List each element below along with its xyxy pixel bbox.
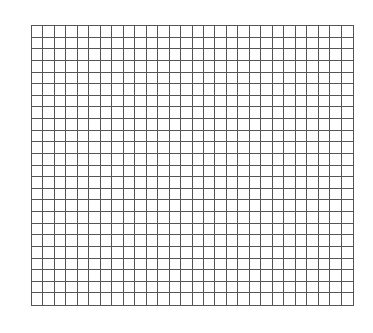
grid-cell: [204, 177, 215, 189]
grid-cell: [238, 166, 249, 178]
grid-cell: [227, 189, 238, 201]
grid-cell: [147, 49, 158, 61]
grid-cell: [238, 49, 249, 61]
grid-cell: [319, 26, 330, 38]
grid-cell: [147, 293, 158, 305]
grid-cell: [158, 235, 169, 247]
grid-cell: [78, 235, 89, 247]
grid-cell: [342, 38, 353, 50]
grid-cell: [330, 235, 341, 247]
grid-cell: [55, 119, 66, 131]
grid-cell: [66, 61, 77, 73]
grid-cell: [319, 154, 330, 166]
grid-cell: [296, 119, 307, 131]
grid-cell: [319, 84, 330, 96]
grid-cell: [250, 282, 261, 294]
grid-cell: [238, 293, 249, 305]
grid-cell: [112, 200, 123, 212]
grid-cell: [273, 259, 284, 271]
grid-cell: [181, 26, 192, 38]
grid-cell: [78, 212, 89, 224]
grid-cell: [32, 200, 43, 212]
grid-cell: [215, 38, 226, 50]
grid-cell: [215, 235, 226, 247]
grid-cell: [296, 61, 307, 73]
grid-cell: [250, 270, 261, 282]
grid-cell: [284, 107, 295, 119]
grid-cell: [250, 154, 261, 166]
grid-cell: [296, 282, 307, 294]
grid-cell: [284, 96, 295, 108]
grid-cell: [135, 96, 146, 108]
grid-cell: [158, 131, 169, 143]
grid-cell: [55, 49, 66, 61]
grid-cell: [43, 166, 54, 178]
grid-cell: [43, 119, 54, 131]
grid-cell: [170, 177, 181, 189]
grid-cell: [89, 107, 100, 119]
grid-cell: [43, 38, 54, 50]
grid-cell: [307, 49, 318, 61]
grid-cell: [296, 154, 307, 166]
grid-cell: [319, 235, 330, 247]
grid-cell: [43, 154, 54, 166]
grid-cell: [238, 270, 249, 282]
grid-cell: [112, 259, 123, 271]
grid-cell: [319, 61, 330, 73]
grid-cell: [284, 84, 295, 96]
grid-cell: [112, 224, 123, 236]
grid-cell: [66, 107, 77, 119]
grid-cell: [204, 235, 215, 247]
grid-cell: [273, 166, 284, 178]
grid-cell: [319, 96, 330, 108]
grid-cell: [170, 119, 181, 131]
grid-cell: [296, 142, 307, 154]
grid-cell: [273, 200, 284, 212]
grid-cell: [273, 247, 284, 259]
grid-cell: [215, 119, 226, 131]
grid-cell: [204, 282, 215, 294]
grid-cell: [296, 247, 307, 259]
grid-cell: [204, 270, 215, 282]
grid-cell: [89, 166, 100, 178]
grid-cell: [170, 166, 181, 178]
grid-cell: [66, 26, 77, 38]
grid-cell: [147, 84, 158, 96]
grid-cell: [66, 200, 77, 212]
grid-cell: [284, 154, 295, 166]
grid-cell: [89, 235, 100, 247]
grid-cell: [307, 131, 318, 143]
grid-cell: [158, 189, 169, 201]
grid-cell: [330, 142, 341, 154]
grid-cell: [135, 107, 146, 119]
grid-cell: [238, 131, 249, 143]
grid-cell: [89, 61, 100, 73]
grid-cell: [307, 270, 318, 282]
grid-cell: [55, 212, 66, 224]
grid-cell: [43, 26, 54, 38]
grid-cell: [238, 38, 249, 50]
grid-cell: [261, 38, 272, 50]
grid-cell: [89, 247, 100, 259]
grid-cell: [78, 166, 89, 178]
grid-cell: [250, 177, 261, 189]
grid-cell: [181, 107, 192, 119]
grid-cell: [227, 73, 238, 85]
grid-cell: [238, 84, 249, 96]
grid-cell: [284, 142, 295, 154]
grid-cell: [319, 200, 330, 212]
grid-cell: [101, 84, 112, 96]
grid-cell: [78, 119, 89, 131]
grid-cell: [261, 142, 272, 154]
grid-cell: [261, 26, 272, 38]
grid-cell: [112, 84, 123, 96]
grid-cell: [101, 107, 112, 119]
grid-cell: [284, 247, 295, 259]
grid-cell: [273, 282, 284, 294]
grid-cell: [170, 96, 181, 108]
grid-cell: [124, 200, 135, 212]
grid-cell: [101, 96, 112, 108]
grid-cell: [273, 38, 284, 50]
grid-cell: [204, 131, 215, 143]
grid-cell: [250, 119, 261, 131]
